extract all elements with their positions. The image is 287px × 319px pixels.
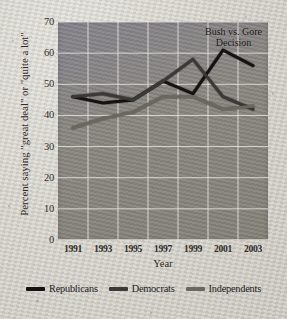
legend-item[interactable]: Democrats [109,283,175,294]
series-canvas [58,22,268,240]
legend-label: Republicans [49,283,98,294]
y-tick-label: 50 [28,79,54,90]
legend-item[interactable]: Independents [186,283,262,294]
line-chart: Percent saying "great deal" or "quite a … [0,0,287,319]
y-tick-label: 40 [28,110,54,121]
legend-swatch-icon [26,287,45,291]
x-axis-title: Year [58,258,268,269]
y-tick-label: 70 [28,17,54,28]
legend-label: Democrats [132,283,175,294]
y-tick-label: 60 [28,48,54,59]
legend-label: Independents [209,283,262,294]
y-tick-label: 20 [28,173,54,184]
legend-swatch-icon [109,287,128,291]
y-tick-label: 0 [28,235,54,246]
annotation-bush-vs-gore: Bush vs. Gore Decision [205,26,262,48]
legend-swatch-icon [186,287,205,291]
y-tick-label: 30 [28,142,54,153]
chart-legend: RepublicansDemocratsIndependents [0,283,287,294]
y-tick-label: 10 [28,204,54,215]
legend-item[interactable]: Republicans [26,283,98,294]
plot-area: Bush vs. Gore Decision [58,22,268,240]
x-tick-label: 2003 [233,243,273,254]
